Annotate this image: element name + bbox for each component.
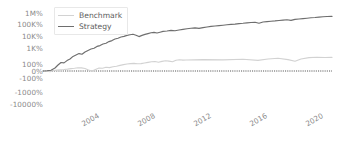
- y-tick-label: -100%: [19, 75, 43, 82]
- y-tick-label: 1M%: [25, 10, 43, 17]
- chart-figure: 1M% 100K% 10K% 1K% 100% 0% -100% -1000% …: [0, 0, 339, 149]
- y-tick-label: 1K%: [27, 45, 43, 52]
- series-line-benchmark: [43, 57, 332, 72]
- x-tick-label: 2020: [305, 112, 325, 128]
- legend-swatch-strategy: [58, 26, 74, 27]
- y-tick-label: -10000%: [10, 101, 43, 108]
- y-tick-label: 100K%: [17, 21, 43, 28]
- y-tick-label: 10K%: [22, 33, 43, 40]
- x-tick-label: 2012: [193, 112, 213, 128]
- chart-legend: Benchmark Strategy: [54, 7, 128, 35]
- legend-label-benchmark: Benchmark: [79, 12, 122, 20]
- y-tick-label: -1000%: [15, 89, 43, 96]
- legend-label-strategy: Strategy: [79, 23, 112, 31]
- legend-item-benchmark[interactable]: Benchmark: [58, 10, 122, 21]
- x-tick-label: 2004: [81, 112, 101, 128]
- legend-swatch-benchmark: [58, 15, 74, 16]
- legend-item-strategy[interactable]: Strategy: [58, 21, 122, 32]
- x-tick-label: 2008: [137, 112, 157, 128]
- x-tick-label: 2016: [249, 112, 269, 128]
